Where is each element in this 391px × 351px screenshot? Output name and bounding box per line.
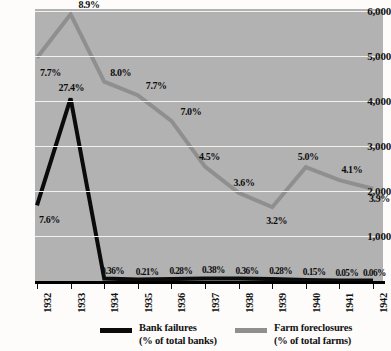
x-tick-1936 bbox=[171, 284, 172, 289]
farm-labels-1940: 5.0% bbox=[298, 152, 319, 162]
x-tick-1933 bbox=[71, 284, 72, 289]
legend-farm-name: Farm foreclosures bbox=[274, 322, 352, 335]
bank-labels-1934: 0.36% bbox=[101, 266, 124, 276]
y-tick-label-4000: 4,000 bbox=[358, 96, 391, 107]
farm-labels-1935: 7.7% bbox=[146, 81, 167, 91]
bank-labels-1932: 7.6% bbox=[39, 215, 60, 225]
x-tick-1940 bbox=[306, 284, 307, 289]
farm-labels-1933: 8.9% bbox=[79, 0, 100, 10]
legend-item-farm-foreclosures: Farm foreclosures (% of total farms) bbox=[235, 322, 352, 347]
legend-swatch-gray-line-icon bbox=[235, 328, 267, 333]
bank-labels-1938: 0.36% bbox=[236, 266, 259, 276]
series-lines bbox=[35, 9, 383, 281]
legend-label-bank: Bank failures (% of total banks) bbox=[139, 322, 217, 347]
legend-bank-unit: (% of total banks) bbox=[139, 335, 217, 348]
gridline-1000 bbox=[35, 236, 383, 237]
gridline-4000 bbox=[35, 101, 383, 102]
chart-container: 6,000 5,000 4,000 3,000 2,000 1,000 1932… bbox=[0, 0, 391, 351]
gridline-5000 bbox=[35, 56, 383, 57]
y-tick-label-1000: 1,000 bbox=[358, 231, 391, 242]
farm-labels-1941: 4.1% bbox=[341, 165, 362, 175]
gridline-6000 bbox=[35, 11, 383, 12]
bank-labels-1939: 0.28% bbox=[269, 266, 292, 276]
y-tick-label-6000: 6,000 bbox=[358, 6, 391, 17]
y-tick-label-3000: 3,000 bbox=[358, 141, 391, 152]
bank-labels-1935: 0.21% bbox=[136, 267, 159, 277]
x-tick-1935 bbox=[138, 284, 139, 289]
x-tick-1938 bbox=[239, 284, 240, 289]
x-tick-1937 bbox=[205, 284, 206, 289]
y-tick-label-5000: 5,000 bbox=[358, 51, 391, 62]
bank-labels-1937: 0.38% bbox=[202, 265, 225, 275]
x-tick-1934 bbox=[104, 284, 105, 289]
farm-labels-1937: 4.5% bbox=[199, 152, 220, 162]
bank-labels-1942: 0.06% bbox=[363, 268, 386, 278]
legend-item-bank-failures: Bank failures (% of total banks) bbox=[100, 322, 217, 347]
bank-failures-line bbox=[37, 98, 373, 280]
x-tick-1932 bbox=[37, 284, 38, 289]
legend-label-farm: Farm foreclosures (% of total farms) bbox=[274, 322, 352, 347]
bank-labels-1933: 27.4% bbox=[59, 83, 85, 93]
legend-farm-unit: (% of total farms) bbox=[274, 335, 352, 348]
farm-labels-1934: 8.0% bbox=[110, 68, 131, 78]
x-axis-line bbox=[35, 281, 385, 284]
farm-labels-1939: 3.2% bbox=[266, 216, 287, 226]
x-tick-1939 bbox=[272, 284, 273, 289]
legend-swatch-black-line-icon bbox=[100, 328, 132, 333]
plot-area bbox=[35, 9, 383, 281]
farm-labels-1942: 3.9% bbox=[369, 194, 390, 204]
gridline-2000 bbox=[35, 191, 383, 192]
farm-labels-1936: 7.0% bbox=[180, 107, 201, 117]
bank-labels-1936: 0.28% bbox=[169, 266, 192, 276]
farm-labels-1932: 7.7% bbox=[40, 68, 61, 78]
x-tick-1941 bbox=[339, 284, 340, 289]
bank-labels-1940: 0.15% bbox=[303, 267, 326, 277]
x-tick-1942 bbox=[373, 284, 374, 289]
bank-labels-1941: 0.05% bbox=[335, 268, 358, 278]
farm-labels-1938: 3.6% bbox=[234, 178, 255, 188]
chart-legend: Bank failures (% of total banks) Farm fo… bbox=[0, 322, 391, 351]
gridline-3000 bbox=[35, 146, 383, 147]
legend-bank-name: Bank failures bbox=[139, 322, 217, 335]
